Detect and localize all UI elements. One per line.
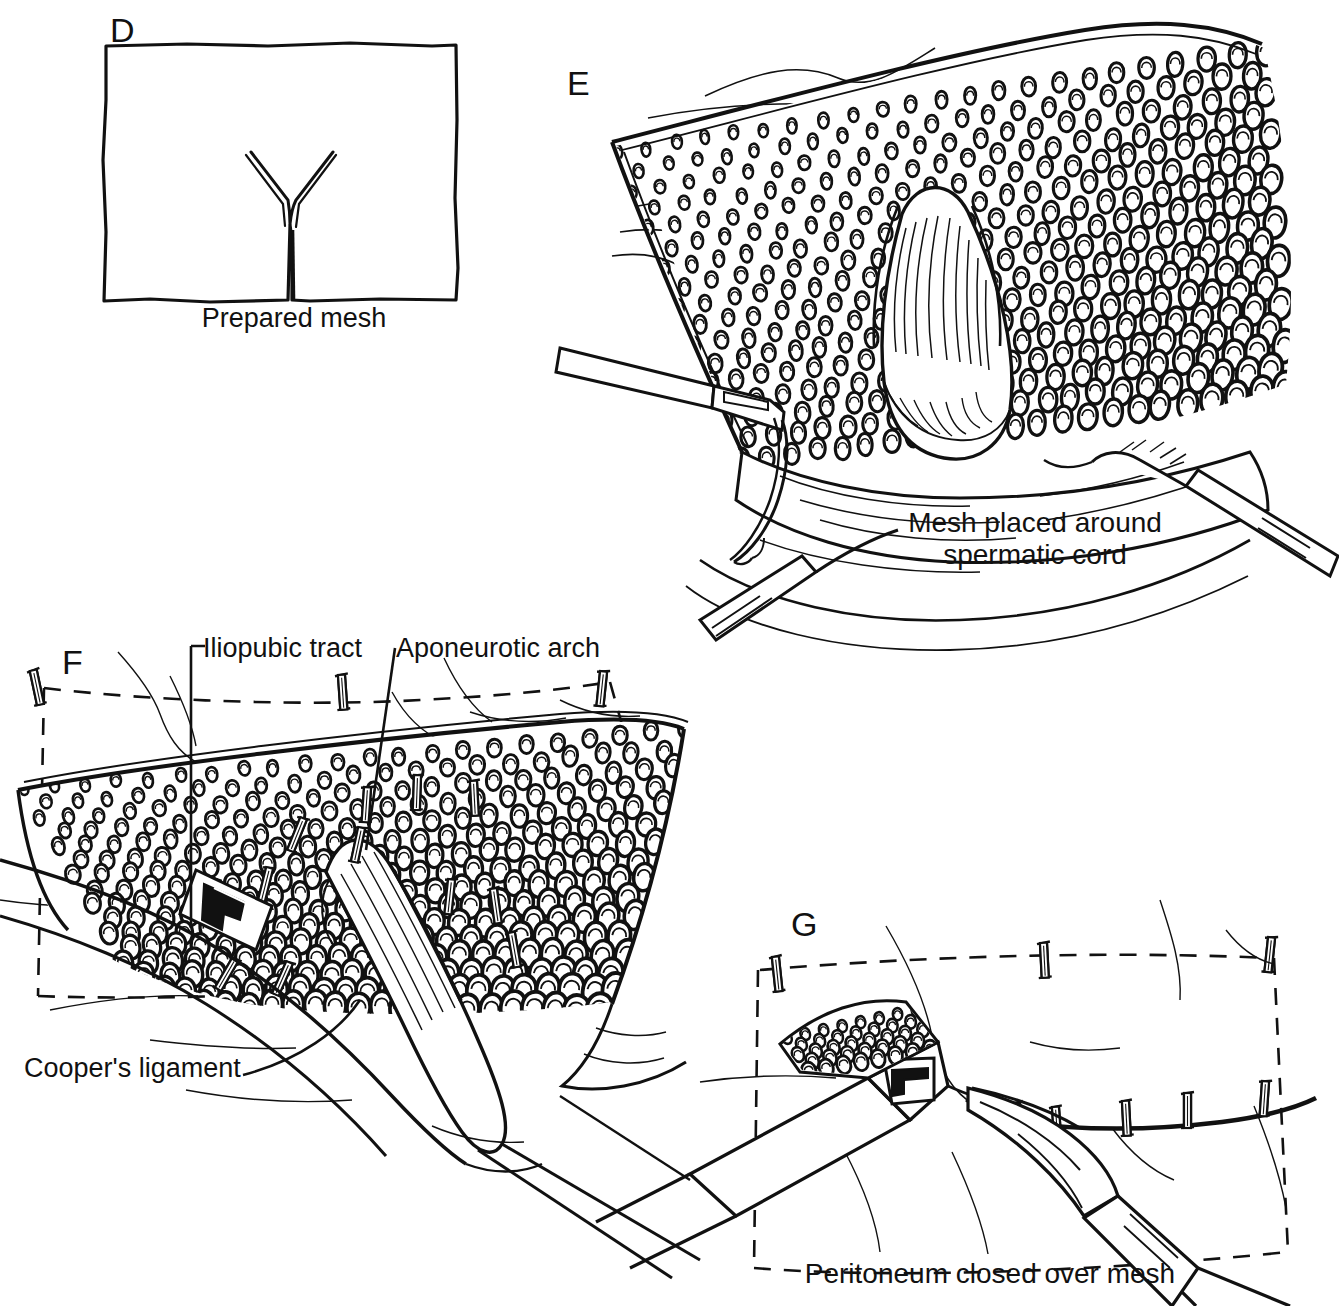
panel-letter-f: F (62, 645, 83, 679)
panel-letter-e: E (567, 66, 590, 100)
mesh-slit-stem-right (293, 230, 294, 300)
caption-prepared-mesh: Prepared mesh (108, 303, 480, 334)
label-coopers-ligament: Cooper's ligament (24, 1055, 241, 1082)
mesh-sheet-outline (103, 43, 458, 302)
label-iliopubic-tract: Iliopubic tract (203, 635, 362, 662)
caption-peritoneum-closed-over-mesh: Peritoneum closed over mesh (690, 1258, 1290, 1290)
panel-letter-d: D (110, 13, 135, 47)
surgical-illustration-figure (0, 0, 1339, 1306)
panel-d-prepared-mesh (103, 43, 458, 302)
panel-letter-g: G (791, 907, 818, 941)
caption-mesh-placed-around-spermatic-cord: Mesh placed around spermatic cord (845, 507, 1225, 571)
label-aponeurotic-arch: Aponeurotic arch (396, 635, 600, 662)
